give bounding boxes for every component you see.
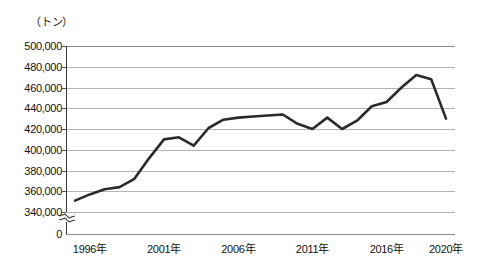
gridline	[66, 191, 455, 192]
x-axis-line	[66, 234, 455, 235]
gridline	[66, 88, 455, 89]
gridline	[66, 67, 455, 68]
gridline	[66, 108, 455, 109]
y-axis-tick-label: 400,000	[0, 144, 62, 156]
y-axis-line	[66, 46, 67, 212]
axis-break-icon	[59, 212, 75, 224]
y-axis-tick-label: 380,000	[0, 165, 62, 177]
gridline-top	[66, 46, 455, 47]
y-axis-tick-label: 460,000	[0, 82, 62, 94]
x-axis-tick-label: 1996年	[73, 240, 107, 256]
y-axis-tick-label: 0	[0, 228, 62, 240]
y-axis-tick-label: 480,000	[0, 61, 62, 73]
gridline	[66, 150, 455, 151]
gridline	[66, 212, 455, 213]
gridline	[66, 171, 455, 172]
series-layer	[0, 0, 496, 278]
y-axis-tick-label: 420,000	[0, 123, 62, 135]
x-axis-tick-label: 2016年	[370, 240, 404, 256]
y-axis-tick-label: 500,000	[0, 40, 62, 52]
y-axis-labels: 500,000480,000460,000440,000420,000400,0…	[0, 0, 62, 278]
data-line-series-1	[75, 75, 446, 201]
x-axis-tick-label: 2011年	[296, 240, 329, 256]
y-axis-tick-label: 340,000	[0, 206, 62, 218]
x-axis-tick-label: 2001年	[147, 240, 181, 256]
chart-container: （トン） 500,000480,000460,000440,000420,000…	[0, 0, 496, 278]
gridline	[66, 129, 455, 130]
y-axis-tick-label: 440,000	[0, 102, 62, 114]
y-axis-tick-label: 360,000	[0, 185, 62, 197]
x-axis-tick-label: 2006年	[221, 240, 255, 256]
x-axis-tick-label: 2020年	[429, 240, 463, 256]
